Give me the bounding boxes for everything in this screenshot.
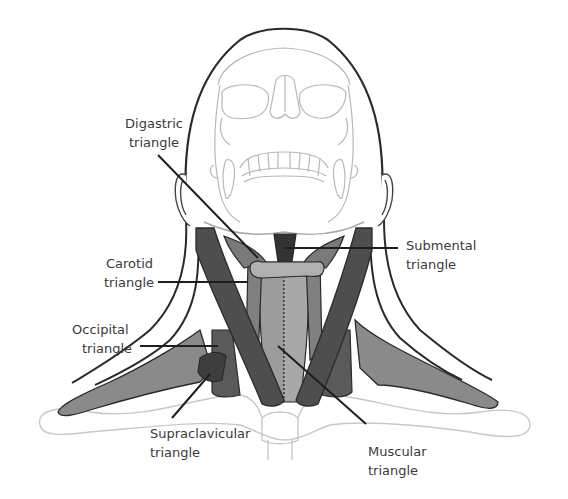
label-occipital-triangle: Occipital triangle — [72, 320, 132, 358]
label-submental-triangle: Submental triangle — [406, 236, 476, 274]
label-muscular-line2: triangle — [368, 461, 427, 480]
label-submental-line2: triangle — [406, 255, 476, 274]
label-carotid-triangle: Carotid triangle — [104, 254, 154, 292]
hyoid-bone — [250, 261, 324, 278]
label-occipital-line2: triangle — [72, 339, 132, 358]
label-muscular-triangle: Muscular triangle — [368, 442, 427, 480]
label-digastric-triangle: Digastric triangle — [104, 114, 204, 152]
label-supraclavicular-line2: triangle — [150, 443, 250, 462]
neck-triangles-diagram — [0, 0, 568, 499]
label-occipital-line1: Occipital — [72, 320, 132, 339]
label-carotid-line2: triangle — [104, 273, 154, 292]
label-carotid-line1: Carotid — [104, 254, 154, 273]
label-supraclavicular-line1: Supraclavicular — [150, 424, 250, 443]
label-supraclavicular-triangle: Supraclavicular triangle — [150, 424, 250, 462]
label-digastric-line2: triangle — [104, 133, 204, 152]
clavicle-outline — [40, 395, 530, 460]
label-digastric-line1: Digastric — [104, 114, 204, 133]
label-submental-line1: Submental — [406, 236, 476, 255]
label-muscular-line1: Muscular — [368, 442, 427, 461]
